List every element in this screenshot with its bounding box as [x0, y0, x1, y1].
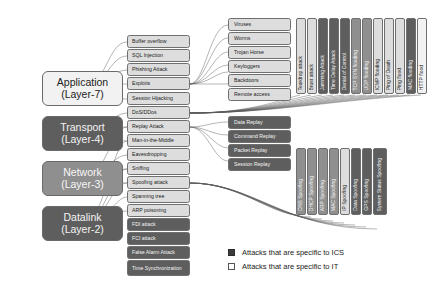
sub-label: Worms	[234, 36, 250, 41]
vchip-label: Teardrop attack	[298, 56, 304, 90]
attack-label: ARP poisoning	[132, 208, 166, 213]
vchip-label: Denial of Control	[342, 53, 348, 90]
sub-chip-command-replay[interactable]: Command Replay	[228, 130, 291, 143]
attack-chip-sniffing[interactable]: Sniffing	[127, 162, 190, 175]
legend-swatch-ics-icon	[228, 249, 235, 256]
attack-chip-buffer-overflow[interactable]: Buffer overflow	[127, 35, 190, 48]
vchip-label: Brust attack	[309, 64, 315, 90]
attack-chip-dos-ddos[interactable]: DoS/DDos	[127, 106, 190, 119]
attack-chip-sql-injection[interactable]: SQL Injection	[127, 49, 190, 62]
vchip-label: DHCP Spoofing	[309, 176, 315, 211]
vchip-label: Ping flood	[397, 68, 403, 90]
vchip-mac-flooding[interactable]: MAC flooding	[406, 18, 416, 94]
sub-chip-session-replay[interactable]: Session Replay	[228, 158, 291, 171]
attack-chip-fdi-attack[interactable]: FDI attack	[127, 218, 190, 231]
vchip-label: DNS Spoofing	[298, 179, 304, 211]
vchip-tcp-syn-flooding[interactable]: TCP SYN flooding	[351, 18, 361, 94]
sub-chip-packet-replay[interactable]: Packet Replay	[228, 144, 291, 157]
vchip-label: HTTP flood	[419, 65, 425, 90]
attack-label: Replay Attack	[132, 124, 164, 129]
attack-label: Phishing Attack	[132, 67, 167, 72]
layer-box-transport[interactable]: Transport (Layer-4)	[42, 116, 123, 151]
vchip-udp-flooding[interactable]: UDP flooding	[362, 18, 372, 94]
vchip-system-status-spoofing[interactable]: System Status Spoofing	[373, 148, 387, 215]
sub-chip-worms[interactable]: Worms	[228, 32, 291, 45]
vchip-gps-spoofing[interactable]: GPS Spoofing	[362, 148, 372, 215]
vchip-brust-attack[interactable]: Brust attack	[307, 18, 317, 94]
vchip-http-flood[interactable]: HTTP flood	[417, 18, 427, 94]
sub-label: Session Replay	[234, 162, 270, 167]
vchip-time-delay-attack[interactable]: Time Delay Attack	[329, 18, 339, 94]
vchip-mac-spoofing[interactable]: MAC Spoofing	[329, 148, 339, 215]
layer-name: Application	[57, 77, 108, 88]
attack-chip-session-hijacking[interactable]: Session Hijacking	[127, 92, 190, 105]
vchip-data-spoofing[interactable]: Data Spoofing	[351, 148, 361, 215]
attack-chip-arp-poisoning[interactable]: ARP poisoning	[127, 204, 190, 217]
vchip-ping-of-death[interactable]: Ping of Death	[384, 18, 394, 94]
vchip-arp-spoofing[interactable]: ARP Spoofing	[318, 148, 328, 215]
attack-label: Session Hijacking	[132, 96, 173, 101]
layer-box-network[interactable]: Network (Layer-3)	[42, 161, 123, 196]
sub-chip-trojan-horse[interactable]: Trojan Horse	[228, 46, 291, 59]
attack-label: FDI attack	[132, 222, 156, 227]
vchip-label: Time Delay Attack	[331, 50, 337, 90]
attack-taxonomy-diagram: Application (Layer-7) Transport (Layer-4…	[0, 0, 447, 284]
vchip-label: ICMP flooding	[375, 59, 381, 90]
layer-box-application[interactable]: Application (Layer-7)	[42, 71, 123, 106]
attack-chip-spanning-tree[interactable]: Spanning tree	[127, 190, 190, 203]
vchip-label: GPS Spoofing	[364, 179, 370, 211]
vchip-label: Jamming Attack	[320, 55, 326, 90]
layer-box-datalink[interactable]: Datalink (Layer-2)	[42, 206, 123, 241]
legend-label-it: Attacks that are specific to IT	[242, 262, 338, 271]
vchip-label: MAC flooding	[408, 60, 414, 90]
sub-chip-viruses[interactable]: Viruses	[228, 18, 291, 31]
vchip-label: ARP Spoofing	[320, 180, 326, 211]
vchip-teardrop-attack[interactable]: Teardrop attack	[296, 18, 306, 94]
attack-chip-eavesdropping[interactable]: Eavesdropping	[127, 148, 190, 161]
sub-chip-data-replay[interactable]: Data Replay	[228, 116, 291, 129]
attack-chip-man-in-the-middle[interactable]: Man-in-the-Middle	[127, 134, 190, 147]
attack-chip-fci-attack[interactable]: FCI attack	[127, 232, 190, 245]
attack-label: FCI attack	[132, 236, 156, 241]
sub-label: Viruses	[234, 22, 251, 27]
attack-label: SQL Injection	[132, 53, 163, 58]
attack-chip-exploits[interactable]: Exploits	[127, 77, 190, 90]
sub-chip-keyloggers[interactable]: Keyloggers	[228, 60, 291, 73]
attack-chip-replay-attack[interactable]: Replay Attack	[127, 120, 190, 133]
vchip-dhcp-spoofing[interactable]: DHCP Spoofing	[307, 148, 317, 215]
legend: Attacks that are specific to ICS Attacks…	[228, 248, 344, 276]
sub-label: Data Replay	[234, 120, 263, 125]
vchip-label: Data Spoofing	[353, 179, 359, 211]
vchip-denial-of-control[interactable]: Denial of Control	[340, 18, 350, 94]
sub-chip-remote-access[interactable]: Remote access	[228, 88, 291, 101]
layer-name: Transport	[60, 122, 105, 133]
layer-name: Network	[63, 167, 102, 178]
attack-label: Exploits	[132, 81, 150, 86]
vchip-label: UDP flooding	[364, 61, 370, 90]
attack-chip-false-alarm-attack[interactable]: False Alarm Attack	[127, 246, 190, 259]
vchip-ip-spoofing[interactable]: IP Spoofing	[340, 148, 350, 215]
vchip-jamming-attack[interactable]: Jamming Attack	[318, 18, 328, 94]
attack-label: Spoofing attack	[132, 180, 168, 185]
sub-label: Backdoors	[234, 78, 259, 83]
sub-label: Trojan Horse	[234, 50, 264, 55]
vchip-label: IP Spoofing	[342, 185, 348, 211]
vchip-dns-spoofing[interactable]: DNS Spoofing	[296, 148, 306, 215]
legend-swatch-it-icon	[228, 263, 235, 270]
attack-chip-time-synchronization[interactable]: Time Synchronization	[127, 260, 190, 276]
sub-chip-backdoors[interactable]: Backdoors	[228, 74, 291, 87]
vchip-icmp-flooding[interactable]: ICMP flooding	[373, 18, 383, 94]
legend-row-ics: Attacks that are specific to ICS	[228, 248, 344, 257]
attack-label: Time Synchronization	[132, 265, 182, 272]
sub-label: Keyloggers	[234, 64, 260, 69]
layer-level: (Layer-7)	[61, 89, 104, 100]
attack-label: Sniffing	[132, 166, 149, 171]
attack-label: Spanning tree	[132, 194, 164, 199]
layer-level: (Layer-4)	[61, 134, 104, 145]
vchip-ping-flood[interactable]: Ping flood	[395, 18, 405, 94]
vchip-label: System Status Spoofing	[377, 158, 383, 211]
attack-chip-spoofing-attack[interactable]: Spoofing attack	[127, 176, 190, 189]
attack-label: Man-in-the-Middle	[132, 138, 174, 143]
vchip-label: MAC Spoofing	[331, 179, 337, 211]
attack-chip-phishing-attack[interactable]: Phishing Attack	[127, 63, 190, 76]
